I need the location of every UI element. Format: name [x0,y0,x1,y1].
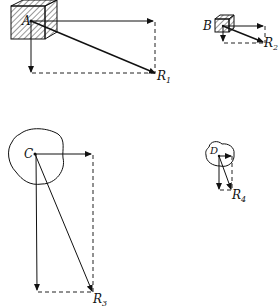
label-d: D [209,145,218,156]
label-r4: R4 [231,188,246,204]
body-a: A R1 [11,0,171,85]
label-a: A [21,14,31,28]
resultant-r2-arrow [223,26,263,42]
cube-a [11,0,57,39]
resultant-r1-arrow [31,21,155,73]
label-b: B [202,19,212,33]
label-r3: R3 [92,292,107,307]
resultant-r4-arrow [219,156,231,189]
body-d: D R4 [206,142,246,204]
resultant-r3-arrow [35,154,92,291]
body-c: C R3 [9,129,108,307]
label-r1: R1 [156,69,171,85]
label-c: C [24,147,33,161]
label-r2: R2 [263,36,278,52]
diagram-canvas: A R1 B R2 C R3 [0,0,278,307]
body-b: B R2 [202,15,278,52]
